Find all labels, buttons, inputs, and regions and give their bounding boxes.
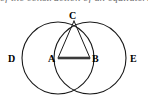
vertex-label-c: C: [69, 11, 76, 21]
segment-c-to-b: [74, 21, 90, 58]
segment-c-to-a: [58, 21, 74, 58]
geometry-figure: of the construction of an equilateral C …: [0, 0, 148, 102]
vertex-label-a: A: [48, 54, 55, 64]
vertex-label-e: E: [130, 54, 137, 64]
vertex-label-b: B: [92, 54, 99, 64]
vertex-label-d: D: [8, 54, 15, 64]
